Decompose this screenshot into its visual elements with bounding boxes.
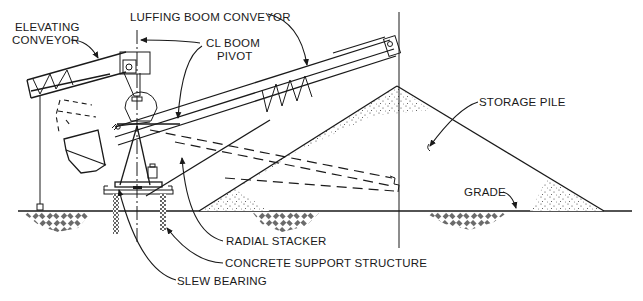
radial-stacker-diagram: ELEVATING CONVEYOR LUFFING BOOM CONVEYOR…: [0, 0, 643, 301]
label-cl-boom-pivot-1: CL BOOM: [206, 37, 260, 49]
earth-hatch-right: [424, 212, 508, 230]
label-concrete-support-structure: CONCRETE SUPPORT STRUCTURE: [225, 257, 427, 269]
label-cl-boom-pivot-2: PIVOT: [217, 50, 253, 62]
slew-drive-cap: [150, 164, 155, 167]
boom-truss: [262, 76, 312, 112]
counterweight-sector: [125, 92, 157, 121]
slew-bearing-ring: [104, 190, 173, 194]
grade-line-group: [18, 211, 632, 232]
elev-bottom-chord: [31, 72, 126, 98]
elev-truss: [33, 70, 73, 94]
elev-drive-box: [123, 60, 136, 73]
lowered-boom-positions: [150, 130, 399, 192]
boom-support-strut: [146, 120, 270, 196]
label-storage-pile: STORAGE PILE: [479, 96, 566, 108]
leader-slew-bearing: [119, 190, 176, 280]
label-elevating-conveyor-1: ELEVATING: [15, 21, 80, 33]
head-pulley-icon: [388, 42, 393, 47]
label-luffing-boom-conveyor: LUFFING BOOM CONVEYOR: [130, 11, 291, 23]
pile-stipple-right: [530, 179, 604, 211]
pile-left-slope: [199, 86, 397, 211]
elev-head-box: [120, 52, 150, 74]
leader-concrete-support: [167, 228, 223, 263]
boom-lowered-ground: [225, 178, 394, 191]
concrete-pier-right: [160, 194, 166, 231]
leader-cl-boom-pivot-top: [141, 40, 200, 43]
earth-hatch-center: [252, 212, 320, 232]
label-elevating-conveyor-2: CONVEYOR: [12, 34, 79, 46]
slew-drive-unit: [148, 167, 157, 178]
elev-support-foot: [37, 204, 43, 210]
leader-cl-boom-pivot-bottom: [178, 46, 202, 118]
pile-stipple-left: [199, 86, 430, 211]
boom-lowered-bottom: [175, 142, 392, 186]
elev-tail-end: [27, 80, 31, 98]
label-grade: GRADE: [464, 186, 506, 198]
boom-cover: [333, 37, 385, 53]
label-radial-stacker: RADIAL STACKER: [226, 235, 327, 247]
drive-motor-icon: [126, 64, 132, 70]
slew-center-block: [133, 186, 142, 189]
leader-storage-pile: [430, 102, 478, 146]
label-slew-bearing: SLEW BEARING: [177, 275, 267, 287]
elevating-conveyor: [27, 52, 150, 210]
concrete-pier-left: [113, 194, 119, 234]
pile-mark: [428, 144, 430, 151]
earth-hatch-left: [22, 212, 92, 232]
feed-hopper: [56, 100, 106, 173]
hopper-dashed-alt: [56, 100, 96, 132]
